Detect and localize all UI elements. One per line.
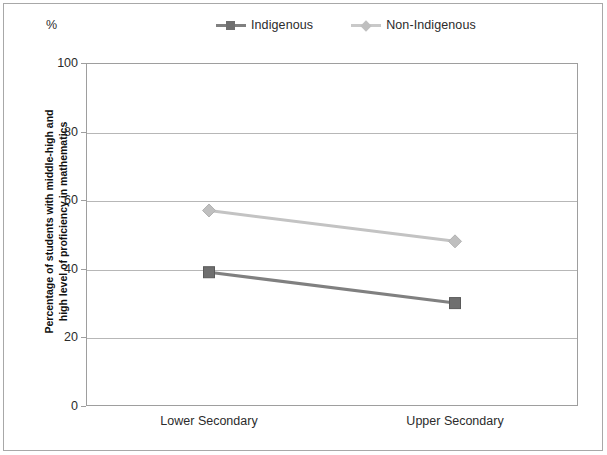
x-axis-tick-label: Lower Secondary: [160, 414, 257, 428]
x-axis-tick-label: Upper Secondary: [406, 414, 503, 428]
series-line: [209, 272, 455, 303]
data-series-layer: [86, 63, 578, 406]
y-axis-unit-label: %: [46, 18, 57, 32]
chart-legend: Indigenous Non-Indigenous: [216, 14, 476, 36]
series-line: [209, 210, 455, 241]
legend-label-non-indigenous: Non-Indigenous: [386, 18, 476, 32]
data-point-marker-diamond: [203, 204, 216, 217]
y-axis-tick-mark: [81, 406, 86, 407]
chart-figure: Indigenous Non-Indigenous % Percentage o…: [0, 0, 607, 455]
y-axis-tick-label: 20: [12, 330, 78, 344]
legend-item-non-indigenous: Non-Indigenous: [351, 18, 476, 32]
y-axis-tick-label: 100: [12, 56, 78, 70]
data-point-marker-square: [204, 267, 215, 278]
data-point-marker-diamond: [449, 235, 462, 248]
series-non-indigenous: [203, 204, 462, 248]
y-axis-tick-label: 60: [12, 193, 78, 207]
y-axis-tick-label: 80: [12, 125, 78, 139]
legend-swatch-non-indigenous: [351, 19, 381, 31]
y-axis-tick-label: 0: [12, 399, 78, 413]
y-axis-tick-label: 40: [12, 262, 78, 276]
legend-swatch-indigenous: [216, 19, 246, 31]
series-indigenous: [204, 267, 461, 309]
legend-item-indigenous: Indigenous: [216, 18, 313, 32]
data-point-marker-square: [450, 298, 461, 309]
legend-label-indigenous: Indigenous: [251, 18, 313, 32]
